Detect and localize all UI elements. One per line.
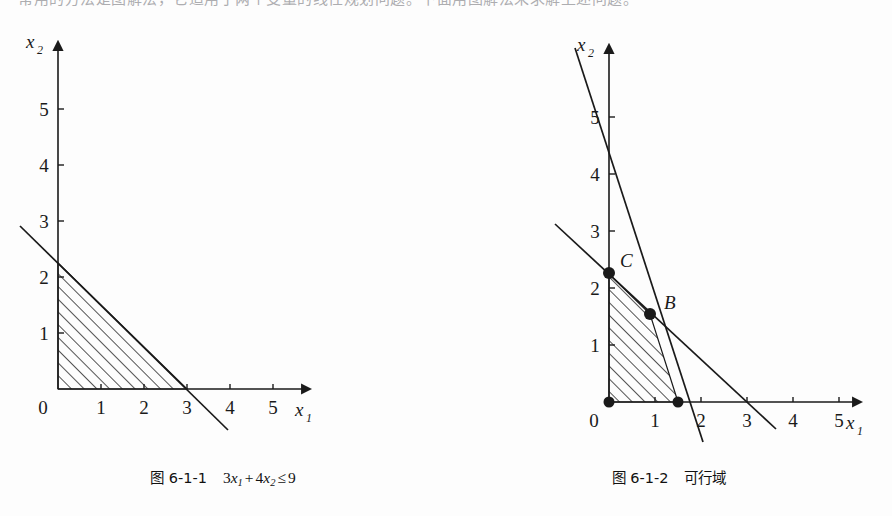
caption-plus: + bbox=[243, 469, 256, 486]
y-tick-label-4-right: 4 bbox=[590, 164, 600, 185]
vertex-marker-origin bbox=[604, 397, 615, 408]
caption-figure-6-1-2: 图 6-1-2可行域 bbox=[446, 466, 892, 487]
y-tick-label-2-right: 2 bbox=[590, 278, 600, 299]
y-axis-label-sub-right: 2 bbox=[588, 46, 594, 60]
constraint-line-left bbox=[20, 226, 228, 430]
y-tick-label-1-left: 1 bbox=[39, 323, 49, 344]
caption-sub2: 2 bbox=[270, 477, 275, 488]
x-tick-label-1-right: 1 bbox=[650, 410, 660, 431]
figure-6-1-1: 0 1 2 3 4 5 1 2 3 4 5 x 1 x 2 图 6-1-13x1 bbox=[0, 0, 446, 516]
figure-6-1-2: C B 0 1 2 3 4 5 1 2 3 4 5 x 1 x bbox=[446, 0, 892, 516]
y-tick-label-3-left: 3 bbox=[39, 211, 49, 232]
vertex-marker-a bbox=[673, 397, 684, 408]
x-axis-label-left: x bbox=[294, 399, 304, 420]
x-tick-label-2-right: 2 bbox=[696, 410, 706, 431]
y-tick-label-4-left: 4 bbox=[39, 155, 49, 176]
vertex-marker-b bbox=[644, 308, 656, 320]
plot-right: C B 0 1 2 3 4 5 1 2 3 4 5 x 1 x bbox=[446, 0, 892, 460]
x-axis-label-sub-left: 1 bbox=[306, 411, 312, 425]
caption-relation: ≤ bbox=[276, 469, 289, 486]
caption-formula-left: 3x1+4x2≤9 bbox=[223, 469, 296, 486]
vertex-marker-c bbox=[603, 267, 615, 279]
y-tick-label-1-right: 1 bbox=[590, 335, 600, 356]
x-tick-label-4-left: 4 bbox=[225, 397, 235, 418]
y-tick-label-3-right: 3 bbox=[590, 221, 600, 242]
caption-figure-6-1-1: 图 6-1-13x1+4x2≤9 bbox=[0, 466, 446, 488]
x-tick-label-3-left: 3 bbox=[182, 397, 192, 418]
origin-label-left: 0 bbox=[38, 397, 48, 418]
origin-label-right: 0 bbox=[589, 410, 599, 431]
plot-left: 0 1 2 3 4 5 1 2 3 4 5 x 1 x 2 bbox=[0, 0, 446, 460]
x-axis-label-right: x bbox=[845, 412, 855, 433]
caption-var1: x bbox=[231, 469, 238, 486]
x-tick-label-3-right: 3 bbox=[742, 410, 752, 431]
x-tick-label-4-right: 4 bbox=[788, 410, 798, 431]
vertex-label-b: B bbox=[664, 292, 676, 313]
vertex-label-c: C bbox=[620, 250, 633, 271]
caption-coef1: 3 bbox=[223, 469, 231, 486]
caption-number-right: 图 6-1-2 bbox=[612, 470, 669, 486]
x-axis-label-sub-right: 1 bbox=[857, 424, 863, 438]
x-tick-label-5-right: 5 bbox=[834, 410, 844, 431]
figure-page: 常用的方法是图解法，它适用于两个变量的线性规划问题。下面用图解法来求解上述问题。 bbox=[0, 0, 892, 516]
y-tick-label-5-left: 5 bbox=[39, 99, 49, 120]
x-tick-label-1-left: 1 bbox=[96, 397, 106, 418]
y-tick-label-2-left: 2 bbox=[39, 267, 49, 288]
x-tick-label-2-left: 2 bbox=[139, 397, 149, 418]
y-axis-label-right: x bbox=[576, 34, 586, 55]
caption-text-right: 可行域 bbox=[684, 470, 726, 486]
x-tick-label-5-left: 5 bbox=[268, 397, 278, 418]
caption-number-left: 图 6-1-1 bbox=[150, 470, 207, 486]
y-axis-label-sub-left: 2 bbox=[37, 43, 43, 57]
y-tick-label-5-right: 5 bbox=[590, 107, 600, 128]
y-axis-label-left: x bbox=[25, 31, 35, 52]
caption-rhs: 9 bbox=[288, 469, 296, 486]
